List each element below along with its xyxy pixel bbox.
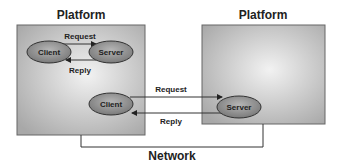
network-label: Network [148,149,196,163]
internal-request-label: Request [64,32,96,41]
left-platform-title: Platform [57,8,106,22]
client-top-label: Client [38,48,61,57]
internal-reply-label: Reply [69,66,91,75]
client-bottom-label: Client [100,100,123,109]
right-platform-title: Platform [239,8,288,22]
left-platform-box [17,25,145,135]
server-right-label: Server [227,103,252,112]
left-platform [17,25,145,135]
diagram-canvas: Platform Platform Client Server Client S… [0,0,338,167]
network-request-label: Request [155,85,187,94]
network-reply-label: Reply [160,117,182,126]
server-top-label: Server [99,48,124,57]
